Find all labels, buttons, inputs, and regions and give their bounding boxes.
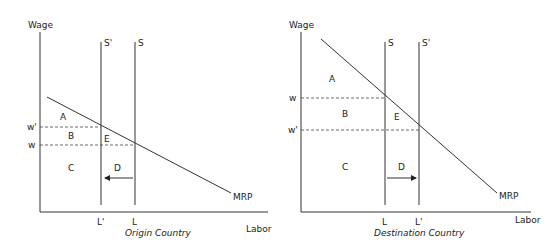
area-d: D xyxy=(114,163,121,173)
x-tick-l-prime: L' xyxy=(415,217,423,227)
y-axis-label: Wage xyxy=(28,20,54,30)
wage-tick-w-prime: w' xyxy=(288,125,298,135)
caption-destination-country: Destination Country xyxy=(374,228,465,238)
wage-tick-w: w xyxy=(289,93,296,103)
area-d: D xyxy=(398,162,405,172)
x-tick-l: L xyxy=(382,217,387,227)
x-tick-l-prime: L' xyxy=(97,217,105,227)
area-b: B xyxy=(342,109,348,119)
area-a: A xyxy=(60,112,67,122)
mrp-label: MRP xyxy=(233,192,253,202)
diagram-canvas: Wage Labor S' S MRP w' w A B E C D L' L … xyxy=(0,0,557,248)
area-b: B xyxy=(68,131,74,141)
x-tick-l: L xyxy=(132,217,137,227)
origin-country-panel: Wage Labor S' S MRP w' w A B E C D L' L … xyxy=(27,20,272,238)
caption-origin-country: Origin Country xyxy=(125,228,191,238)
area-c: C xyxy=(68,163,74,173)
mrp-label: MRP xyxy=(499,191,519,201)
x-axis-label: Labor xyxy=(246,224,272,234)
supply-label-s-prime: S' xyxy=(422,38,430,48)
supply-label-s: S xyxy=(138,38,144,48)
area-a: A xyxy=(329,74,336,84)
area-e: E xyxy=(394,112,400,122)
x-axis-label: Labor xyxy=(515,215,541,225)
destination-country-panel: Wage Labor S S' MRP w w' A B E C D L L' … xyxy=(288,20,541,238)
wage-tick-w-prime: w' xyxy=(27,122,37,132)
area-c: C xyxy=(342,162,348,172)
supply-label-s-prime: S' xyxy=(104,38,112,48)
mrp-curve xyxy=(47,97,231,193)
wage-tick-w: w xyxy=(28,140,35,150)
supply-label-s: S xyxy=(388,38,394,48)
area-e: E xyxy=(104,134,110,144)
y-axis-label: Wage xyxy=(289,20,315,30)
